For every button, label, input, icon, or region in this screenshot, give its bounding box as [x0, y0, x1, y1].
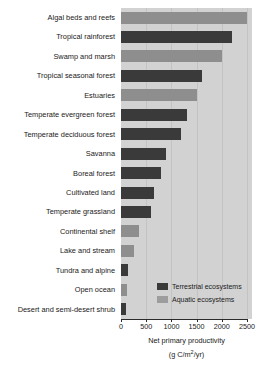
bar-row [121, 164, 252, 183]
bar-row [121, 105, 252, 124]
legend-label: Terrestrial ecosystems [172, 281, 242, 292]
x-axis-title: Net primary productivity (g C/m2/yr) [121, 336, 252, 360]
bar-tundra-and-alpine [121, 264, 128, 276]
category-label: Tundra and alpine [56, 261, 115, 280]
bar-tropical-seasonal-forest [121, 70, 202, 82]
category-label: Swamp and marsh [53, 47, 115, 66]
bar-row [121, 86, 252, 105]
x-tick-label: 1000 [163, 322, 179, 332]
bar-swamp-and-marsh [121, 50, 222, 62]
bar-algal-beds-and-reefs [121, 12, 247, 24]
x-tick-label: 2000 [214, 322, 230, 332]
bar-row [121, 125, 252, 144]
bar-row [121, 202, 252, 221]
bar-row [121, 8, 252, 27]
x-axis-title-text: Net primary productivity [148, 336, 225, 345]
bar-row [121, 66, 252, 85]
category-label: Open ocean [75, 280, 115, 299]
x-axis-tick-labels: 05001000150020002500 [0, 322, 277, 334]
category-axis-labels: Algal beds and reefsTropical rainforestS… [0, 8, 118, 319]
bar-savanna [121, 148, 166, 160]
x-tick-label: 1500 [189, 322, 205, 332]
bar-row [121, 27, 252, 46]
bar-temperate-evergreen-forest [121, 109, 187, 121]
legend-swatch-terrestrial [157, 283, 168, 290]
category-label: Algal beds and reefs [48, 8, 115, 27]
bar-row [121, 222, 252, 241]
category-label: Continental shelf [60, 222, 115, 241]
bar-temperate-grassland [121, 206, 151, 218]
bar-row [121, 144, 252, 163]
bar-row [121, 261, 252, 280]
bar-tropical-rainforest [121, 31, 232, 43]
x-tick-label: 2500 [239, 322, 255, 332]
bar-open-ocean [121, 284, 127, 296]
category-label: Tropical seasonal forest [37, 66, 115, 85]
category-label: Estuaries [84, 86, 115, 105]
x-tick-label: 500 [140, 322, 152, 332]
bar-estuaries [121, 89, 197, 101]
category-label: Savanna [86, 144, 115, 163]
bar-lake-and-stream [121, 245, 134, 257]
net-primary-productivity-chart: Algal beds and reefsTropical rainforestS… [0, 0, 277, 371]
x-axis-line [121, 319, 248, 320]
category-label: Boreal forest [73, 164, 115, 183]
category-label: Temperate deciduous forest [24, 125, 115, 144]
category-label: Tropical rainforest [56, 27, 115, 46]
category-label: Cultivated land [66, 183, 115, 202]
legend-item: Aquatic ecosystems [157, 294, 242, 305]
legend-swatch-aquatic [157, 296, 168, 303]
bar-row [121, 241, 252, 260]
bar-continental-shelf [121, 225, 139, 237]
plot-area [121, 8, 252, 319]
bar-row [121, 183, 252, 202]
x-axis-unit: (g C/m2/yr) [121, 347, 252, 361]
legend-label: Aquatic ecosystems [172, 294, 234, 305]
bar-series-container [121, 8, 252, 319]
category-label: Temperate grassland [46, 202, 115, 221]
bar-temperate-deciduous-forest [121, 128, 181, 140]
legend: Terrestrial ecosystemsAquatic ecosystems [157, 281, 242, 307]
category-label: Temperate evergreen forest [24, 105, 115, 124]
x-tick-label: 0 [119, 322, 123, 332]
category-label: Lake and stream [60, 241, 115, 260]
bar-desert-and-semi-desert-shrub [121, 303, 126, 315]
bar-cultivated-land [121, 187, 154, 199]
bar-row [121, 47, 252, 66]
bar-boreal-forest [121, 167, 161, 179]
category-label: Desert and semi-desert shrub [18, 300, 115, 319]
legend-item: Terrestrial ecosystems [157, 281, 242, 292]
